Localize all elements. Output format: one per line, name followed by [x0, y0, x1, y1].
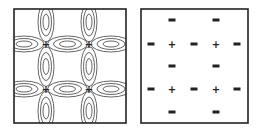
vertical-lobe — [81, 91, 97, 131]
contour-ring — [86, 103, 92, 119]
horizontal-lobe — [48, 36, 88, 52]
contour-ring — [97, 39, 125, 50]
contour-ring — [86, 14, 92, 30]
orbital-contour-panel: ++++ — [4, 2, 131, 131]
minus-sign — [191, 43, 198, 46]
plus-sign: + — [212, 39, 220, 50]
contour-ring — [43, 103, 49, 119]
contour-ring — [41, 97, 52, 125]
contour-ring — [86, 59, 92, 75]
minus-sign — [148, 43, 155, 46]
vertical-lobe — [38, 2, 54, 42]
contour-ring — [41, 53, 52, 81]
contour-ring — [16, 41, 32, 47]
horizontal-lobe — [4, 81, 44, 97]
contour-ring — [84, 8, 95, 36]
minus-sign — [148, 88, 155, 91]
contour-ring — [60, 41, 76, 47]
horizontal-lobe — [48, 81, 88, 97]
vertical-lobe — [81, 2, 97, 42]
contour-ring — [84, 97, 95, 125]
horizontal-lobe — [91, 81, 131, 97]
node-plus-sign: + — [85, 39, 93, 50]
vertical-lobe — [81, 47, 97, 87]
minus-sign — [213, 65, 220, 68]
minus-sign — [191, 88, 198, 91]
sign-pattern-panel: ++++ — [141, 9, 248, 123]
node-plus-sign: + — [42, 39, 50, 50]
minus-sign — [234, 43, 241, 46]
vertical-lobe — [38, 91, 54, 131]
horizontal-lobe — [4, 36, 44, 52]
node-plus-sign: + — [85, 84, 93, 95]
minus-sign — [169, 111, 176, 114]
contour-ring — [84, 53, 95, 81]
plus-sign: + — [168, 84, 176, 95]
horizontal-lobe — [91, 36, 131, 52]
diagram: ++++ ++++ — [0, 0, 260, 132]
minus-sign — [234, 88, 241, 91]
minus-sign — [169, 19, 176, 22]
plus-sign: + — [212, 84, 220, 95]
contour-ring — [60, 86, 76, 92]
node-plus-sign: + — [42, 84, 50, 95]
minus-sign — [169, 65, 176, 68]
contour-ring — [43, 59, 49, 75]
contour-ring — [41, 8, 52, 36]
contour-ring — [97, 84, 125, 95]
contour-ring — [103, 86, 119, 92]
contour-ring — [16, 86, 32, 92]
contour-ring — [43, 14, 49, 30]
left-panel-frame — [14, 9, 126, 123]
minus-sign — [213, 19, 220, 22]
right-panel-frame — [141, 9, 248, 123]
contour-ring — [54, 39, 82, 50]
contour-ring — [103, 41, 119, 47]
minus-sign — [213, 111, 220, 114]
vertical-lobe — [38, 47, 54, 87]
plus-sign: + — [168, 39, 176, 50]
contour-ring — [54, 84, 82, 95]
